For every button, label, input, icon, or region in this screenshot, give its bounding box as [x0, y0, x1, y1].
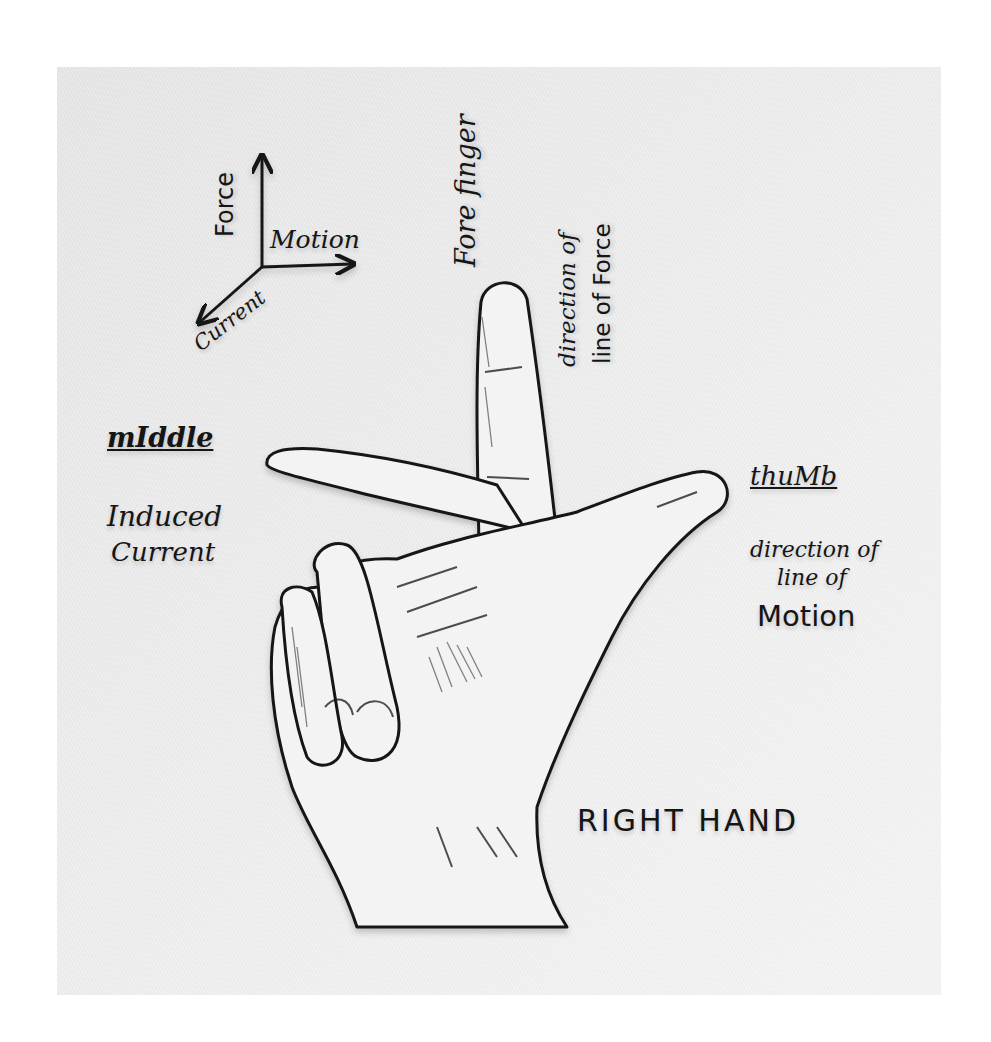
middle-finger-meaning-line1: Induced [107, 500, 222, 533]
thumb-meaning-line1: direction of [750, 537, 879, 562]
forefinger-meaning-line2: line of Force [589, 223, 615, 364]
axes-key-force-label: Force [211, 172, 239, 237]
axes-key-motion-label: Motion [270, 225, 360, 254]
forefinger-meaning-line1: direction of [554, 233, 580, 368]
middle-finger-meaning-line2: Current [111, 537, 215, 567]
thumb-meaning-line3: Motion [757, 599, 855, 633]
thumb-meaning-line2: line of [777, 565, 847, 590]
diagram-card: Force Motion Current Fore finger directi… [57, 67, 941, 995]
middle-finger-label: mIddle [107, 422, 213, 453]
thumb-label: thuMb [750, 461, 837, 491]
diagram-title: RIGHT HAND [577, 803, 799, 838]
forefinger-label: Fore finger [450, 114, 481, 267]
